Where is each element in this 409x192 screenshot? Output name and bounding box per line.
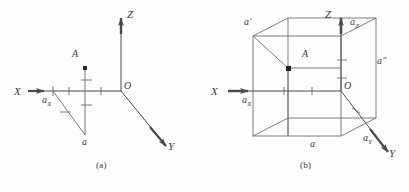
- panel-b-origin-label: O: [344, 80, 351, 91]
- panel-a-point-ax-sub: X: [47, 100, 51, 107]
- panel-b-axis-label-x: X: [211, 85, 218, 97]
- panel-b-point-ay-sub: Y: [368, 138, 372, 145]
- panel-b-point-ay-label: aY: [363, 132, 372, 145]
- panel-b-caption: (b): [300, 160, 311, 170]
- panel-a-y-axis: [121, 91, 166, 146]
- panel-b-point-a-double-prime-label: a″: [377, 55, 387, 66]
- panel-b-point-a-label: a: [310, 138, 315, 149]
- coordinate-diagram-svg: [0, 0, 409, 192]
- panel-a-point-A-label: A: [72, 48, 78, 59]
- panel-b-point-A-marker: [286, 66, 291, 71]
- panel-a-point-ax-label: aX: [42, 94, 51, 107]
- panel-a-point-A-marker: [83, 66, 87, 70]
- panel-a-caption: (a): [96, 160, 107, 170]
- panel-a: [28, 18, 166, 146]
- panel-a-diagonal: [53, 91, 85, 135]
- panel-a-point-a-label: a: [82, 136, 87, 147]
- panel-b-point-az-sub: Z: [355, 22, 359, 29]
- panel-b-point-az-label: aZ: [350, 16, 359, 29]
- panel-b-axis-label-y: Y: [389, 147, 395, 159]
- figure-root: X Y Z O A a aX (a) X Y Z O A a a′ a″ aX …: [0, 0, 409, 192]
- panel-b-point-a-prime-label: a′: [244, 16, 252, 27]
- panel-b-cube-front-face: [253, 36, 341, 136]
- panel-b-point-A-label: A: [302, 48, 308, 59]
- panel-b-interior-lines: [253, 36, 341, 136]
- panel-a-axis-label-y: Y: [168, 140, 174, 152]
- panel-b-point-ax-sub: X: [247, 100, 251, 107]
- panel-a-axis-label-z: Z: [127, 8, 133, 20]
- panel-a-axis-label-x: X: [14, 85, 21, 97]
- panel-b-point-ax-label: aX: [242, 94, 251, 107]
- panel-a-origin-label: O: [124, 80, 131, 91]
- panel-b-axis-label-z: Z: [325, 8, 331, 20]
